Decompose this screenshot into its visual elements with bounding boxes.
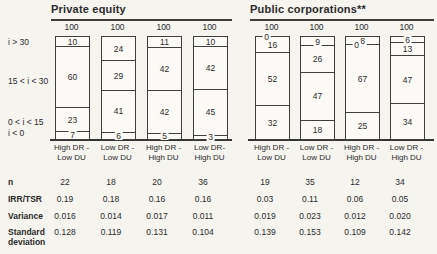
segment-row-label: i > 30 <box>8 37 29 47</box>
bar-segment-value: 6 <box>403 36 412 44</box>
bar-category-label: Low DR - High DU <box>382 143 432 162</box>
bar: 6134734 <box>390 36 425 140</box>
bar-category-label: Low DR- High DU <box>185 143 235 162</box>
bar-segment: 11 <box>148 37 181 48</box>
table-cell-value: 0.06 <box>335 194 375 204</box>
bar-total-label: 100 <box>389 22 424 32</box>
bar-category-label: High DR - High DU <box>337 143 387 162</box>
table-cell-value: 0.011 <box>183 211 223 221</box>
table-cell-value: 0.023 <box>290 211 330 221</box>
bar: 0165232 <box>255 36 290 140</box>
table-cell-value: 0.19 <box>45 194 85 204</box>
bar: 9264718 <box>300 36 335 140</box>
table-cell-value: 0.16 <box>183 194 223 204</box>
table-cell-value: 20 <box>137 177 177 187</box>
bar-segment: 25 <box>346 113 379 139</box>
segment-row-label: i < 0 <box>8 128 24 138</box>
bar-segment-value: 7 <box>68 131 77 139</box>
segment-row-label: 15 < i < 30 <box>8 76 48 86</box>
table-cell-value: 0.016 <box>45 211 85 221</box>
stacked-bar-figure: Private equity Public corporations** i >… <box>0 0 437 254</box>
bar-segment: 23 <box>56 108 89 131</box>
bar-segment-value: 6 <box>114 132 123 140</box>
bar: 1042453 <box>193 36 228 140</box>
table-cell-value: 0.128 <box>45 227 85 237</box>
bar: 1060237 <box>55 36 90 140</box>
group-title-public-corporations: Public corporations** <box>250 3 434 21</box>
bar-segment: 29 <box>102 61 135 91</box>
table-cell-value: 0.139 <box>245 227 285 237</box>
table-cell-value: 18 <box>91 177 131 187</box>
bar-total-label: 100 <box>254 22 289 32</box>
bar-segment-value: 0 <box>352 41 361 49</box>
bar-total-label: 100 <box>146 22 181 32</box>
bar-segment: 42 <box>148 48 181 91</box>
table-cell-value: 0.11 <box>290 194 330 204</box>
table-cell-value: 0.014 <box>91 211 131 221</box>
table-cell-value: 0.142 <box>380 227 420 237</box>
table-cell-value: 0.012 <box>335 211 375 221</box>
group-title-private-equity: Private equity <box>51 3 232 21</box>
table-cell-value: 34 <box>380 177 420 187</box>
table-cell-value: 0.131 <box>137 227 177 237</box>
bar-total-label: 100 <box>100 22 135 32</box>
bar-segment: 41 <box>102 91 135 133</box>
table-cell-value: 19 <box>245 177 285 187</box>
bar-total-label: 100 <box>192 22 227 32</box>
bar-segment: 45 <box>194 90 227 136</box>
bar: 806725 <box>345 36 380 140</box>
bar-segment: 18 <box>301 121 334 139</box>
bar-category-label: High DR - Low DU <box>47 143 97 162</box>
table-cell-value: 22 <box>45 177 85 187</box>
bar-segment: 47 <box>301 73 334 121</box>
table-cell-value: 0.16 <box>137 194 177 204</box>
table-cell-value: 0.05 <box>380 194 420 204</box>
bar: 1142425 <box>147 36 182 140</box>
bar-segment: 13 <box>391 43 424 56</box>
bar-segment: 52 <box>256 53 289 106</box>
table-cell-value: 0.18 <box>91 194 131 204</box>
table-cell-value: 0.020 <box>380 211 420 221</box>
bar-category-label: High DR - High DU <box>139 143 189 162</box>
table-cell-value: 0.017 <box>137 211 177 221</box>
table-cell-value: 0.03 <box>245 194 285 204</box>
bar-segment-value: 3 <box>206 133 215 141</box>
bar-segment-value: 10 <box>66 38 79 46</box>
bar-segment: 47 <box>391 56 424 104</box>
bar-segment: 32 <box>256 106 289 139</box>
table-cell-value: 0.153 <box>290 227 330 237</box>
bar-segment-value: 5 <box>160 132 169 140</box>
bar-category-label: Low DR - Low DU <box>93 143 143 162</box>
bar-segment: 26 <box>301 46 334 73</box>
bar-category-label: Low DR - Low DU <box>292 143 342 162</box>
bar-category-label: High DR - Low DU <box>247 143 297 162</box>
bar-total-label: 100 <box>344 22 379 32</box>
bar-segment-value: 10 <box>204 38 217 46</box>
table-cell-value: 0.119 <box>91 227 131 237</box>
bar-segment: 34 <box>391 104 424 139</box>
table-cell-value: 0.104 <box>183 227 223 237</box>
bar-segment: 42 <box>194 47 227 90</box>
table-cell-value: 12 <box>335 177 375 187</box>
bar-segment: 67 <box>346 45 379 113</box>
bar: 2429416 <box>101 36 136 140</box>
bar-segment: 60 <box>56 47 89 108</box>
bar-total-label: 100 <box>54 22 89 32</box>
table-cell-value: 0.109 <box>335 227 375 237</box>
bar-segment: 16 <box>256 37 289 53</box>
bar-total-label: 100 <box>299 22 334 32</box>
bar-segment: 24 <box>102 37 135 61</box>
table-cell-value: 0.019 <box>245 211 285 221</box>
bar-segment-value: 9 <box>313 38 322 46</box>
segment-row-label: 0 < i < 15 <box>8 117 43 127</box>
bar-segment-value: 0 <box>262 33 271 41</box>
table-cell-value: 36 <box>183 177 223 187</box>
table-cell-value: 35 <box>290 177 330 187</box>
bar-segment: 42 <box>148 91 181 134</box>
